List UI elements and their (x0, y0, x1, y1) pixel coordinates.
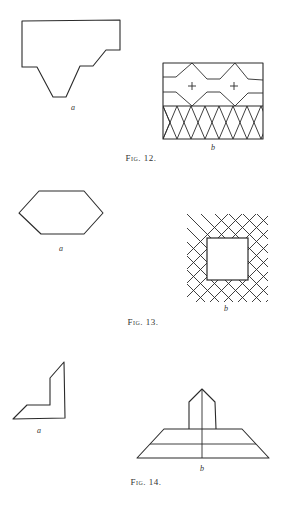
fig14b-house-on-trapezoid (137, 389, 269, 458)
figure-plate (0, 0, 287, 507)
fig12b-patterned-rectangle (149, 63, 275, 139)
plus-sign (230, 82, 238, 90)
fig12-caption: Fig. 12. (125, 153, 156, 163)
plus-sign (188, 82, 196, 90)
fig12-panel-a-label: a (71, 103, 75, 112)
fig14-panel-b-label: b (200, 464, 204, 473)
fig13-panel-b-label: b (224, 304, 228, 313)
fig14-panel-a-label: a (37, 426, 41, 435)
fig13-caption: Fig. 13. (127, 317, 158, 327)
fig12-panel-b-label: b (211, 143, 215, 152)
fig13a-hexagon (19, 191, 103, 234)
fig14a-angle-shape (13, 362, 65, 419)
fig14-caption: Fig. 14. (130, 477, 161, 487)
fig13-panel-a-label: a (59, 244, 63, 253)
fig13b-square-lattice (117, 214, 287, 302)
diamond-lattice (149, 106, 275, 139)
fig12a-stepped-shape (22, 20, 120, 97)
